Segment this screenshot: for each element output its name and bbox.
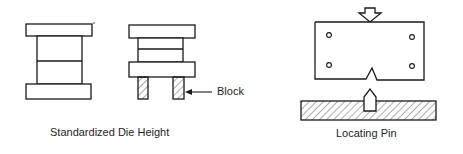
hole-icon xyxy=(327,33,332,38)
block-label: Block xyxy=(217,85,244,97)
block-callout-arrow xyxy=(185,89,212,95)
block-left xyxy=(138,77,148,99)
hole-icon xyxy=(410,35,415,40)
caption-locating-pin: Locating Pin xyxy=(336,127,397,139)
standard-die xyxy=(26,24,92,99)
hole-icon xyxy=(327,63,332,68)
die-bottom-plate xyxy=(26,84,91,99)
block-right xyxy=(173,77,184,99)
press-down-arrow-icon xyxy=(359,8,381,22)
workpiece-plate xyxy=(315,22,424,80)
shortened-die-with-blocks xyxy=(129,25,195,99)
hole-icon xyxy=(410,64,415,69)
die-body xyxy=(37,36,82,84)
caption-standardized-die-height: Standardized Die Height xyxy=(50,126,169,138)
locating-pin xyxy=(364,89,376,111)
die-top-plate xyxy=(26,24,92,36)
die-bottom-plate xyxy=(129,62,195,77)
die-top-plate xyxy=(129,25,195,38)
die-body xyxy=(138,38,183,62)
